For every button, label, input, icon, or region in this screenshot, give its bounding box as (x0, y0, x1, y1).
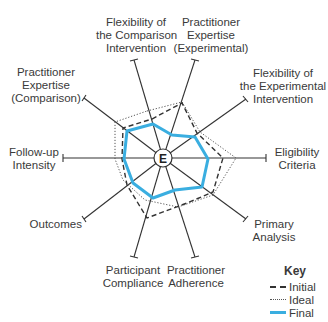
label-line: Primary (244, 218, 304, 231)
label-line: Intervention (238, 93, 328, 106)
label-outcomes: Outcomes (10, 218, 82, 231)
label-line: Practitioner (160, 264, 232, 277)
label-followup: Follow-up Intensity (6, 146, 62, 172)
label-primary-analysis: Primary Analysis (244, 218, 304, 244)
dotted-line-icon (270, 299, 286, 300)
legend-label: Ideal (289, 294, 314, 306)
label-line: Practitioner (171, 16, 251, 29)
label-line: (Experimental) (171, 42, 251, 55)
label-pract-adherence: Practitioner Adherence (160, 264, 232, 290)
label-line: Expertise (171, 29, 251, 42)
label-line: Flexibility of (238, 67, 328, 80)
label-line: (Comparison) (6, 92, 86, 105)
dashed-line-icon (270, 286, 286, 288)
label-line: Participant (97, 264, 169, 277)
spoke-cap (82, 216, 86, 222)
label-line: Intervention (96, 42, 176, 55)
label-line: Follow-up (6, 146, 62, 159)
label-line: Flexibility of (96, 16, 176, 29)
legend-label: Final (289, 307, 314, 319)
legend-item-initial: Initial (270, 280, 316, 293)
label-participant-compliance: Participant Compliance (97, 264, 169, 290)
label-line: Analysis (244, 231, 304, 244)
spoke-pract-expertise-exp (163, 60, 195, 158)
spoke-participant-compliance (134, 158, 163, 257)
label-line: the Experimental (238, 80, 328, 93)
solid-line-icon (270, 311, 286, 314)
legend-item-final: Final (270, 306, 316, 319)
spoke-flex-experimental (163, 99, 246, 158)
label-line: Expertise (6, 79, 86, 92)
label-line: Outcomes (10, 218, 82, 231)
label-line: Eligibility (266, 146, 328, 159)
label-line: Criteria (266, 159, 328, 172)
label-line: Practitioner (6, 66, 86, 79)
legend-item-ideal: Ideal (270, 293, 316, 306)
legend-title: Key (284, 264, 316, 278)
label-line: Intensity (6, 159, 62, 172)
label-line: Compliance (97, 277, 169, 290)
label-line: Adherence (160, 277, 232, 290)
legend-label: Initial (289, 281, 316, 293)
legend: Key Initial Ideal Final (270, 264, 316, 319)
label-pract-expertise-comp: Practitioner Expertise (Comparison) (6, 66, 86, 105)
label-flex-comparison: Flexibility of the Comparison Interventi… (96, 16, 176, 55)
label-line: the Comparison (96, 29, 176, 42)
spoke-pract-adherence (163, 158, 195, 257)
center-label: E (159, 152, 167, 166)
spoke-flex-comparison (134, 60, 163, 158)
label-pract-expertise-exp: Practitioner Expertise (Experimental) (171, 16, 251, 55)
label-flex-experimental: Flexibility of the Experimental Interven… (238, 67, 328, 106)
label-eligibility: Eligibility Criteria (266, 146, 328, 172)
